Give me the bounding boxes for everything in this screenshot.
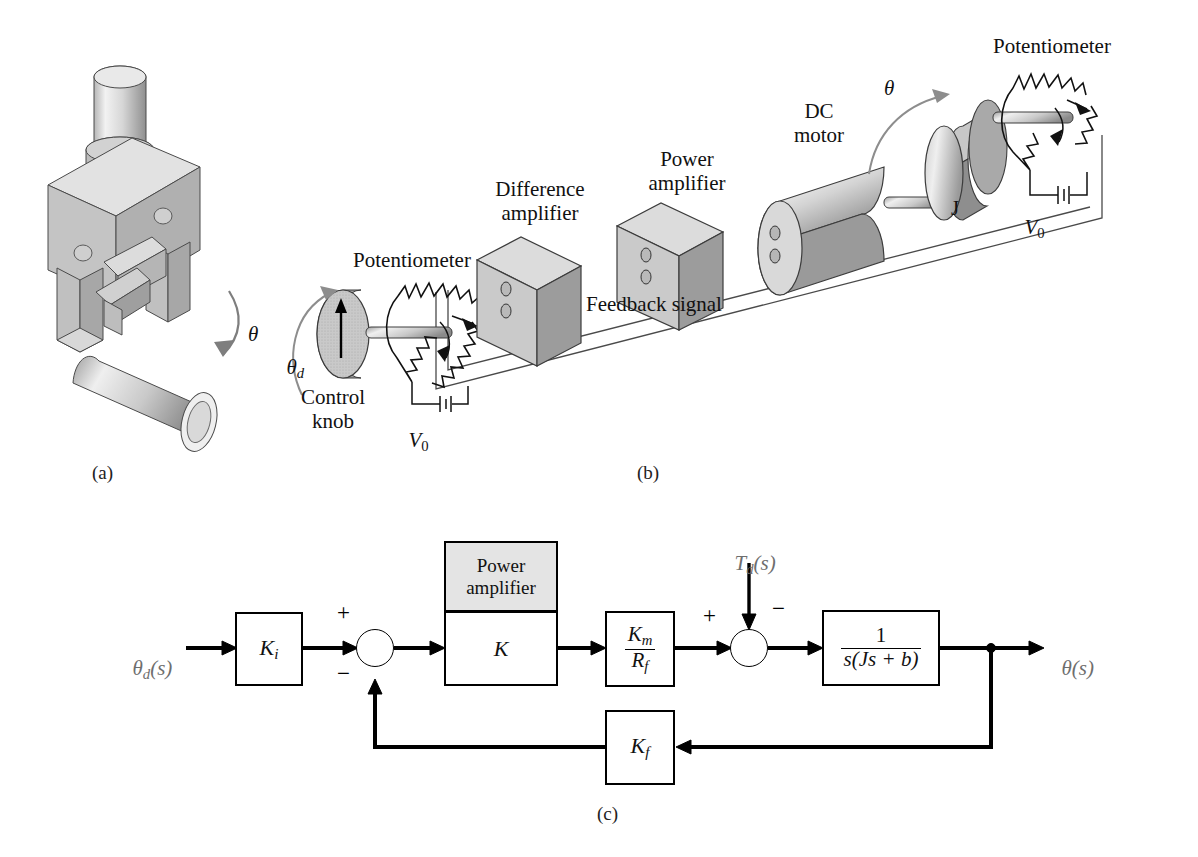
error-summing-junction[interactable] xyxy=(356,629,394,667)
power-amplifier-block[interactable]: K xyxy=(444,611,558,686)
feedback-signal-label: Feedback signal xyxy=(586,293,722,317)
kf-block-label: Kf xyxy=(607,712,673,783)
workpiece-cylinder xyxy=(73,356,223,455)
error-sum-minus-sign: − xyxy=(337,661,350,687)
power-amplifier-header-line2: amplifier xyxy=(466,577,536,599)
theta-label-b: θ xyxy=(884,77,894,101)
difference-amplifier-box xyxy=(477,237,581,366)
voltage-right-label: V0 xyxy=(1014,192,1045,241)
theta-d-label-b: θd xyxy=(276,332,304,381)
kf-block[interactable]: Kf xyxy=(605,710,675,785)
disturbance-sum-minus-sign: − xyxy=(772,596,785,622)
plant-block[interactable]: 1 s(Js + b) xyxy=(822,610,940,686)
km-rf-block[interactable]: Km Rf xyxy=(605,611,675,687)
inertia-label: J xyxy=(951,197,959,221)
output-signal-label: θ(s) xyxy=(1051,633,1094,680)
disturbance-sum-plus-sign: + xyxy=(703,603,716,629)
disturbance-summing-junction[interactable] xyxy=(730,629,768,667)
potentiometer-left-label: Potentiometer xyxy=(353,249,471,273)
power-amplifier-gain-label: K xyxy=(446,613,556,684)
control-knob-label: Controlknob xyxy=(301,386,365,433)
voltage-left-label: V0 xyxy=(398,405,429,454)
error-sum-plus-sign: + xyxy=(337,600,350,626)
power-amplifier-label-b: Poweramplifier xyxy=(649,148,726,195)
disturbance-signal-label: Td(s) xyxy=(724,528,776,577)
power-amplifier-block-header: Power amplifier xyxy=(444,541,558,612)
control-knob xyxy=(317,290,452,378)
km-rf-block-label: Km Rf xyxy=(607,613,673,685)
plant-block-label: 1 s(Js + b) xyxy=(824,612,938,684)
theta-label-a: θ xyxy=(248,323,258,347)
input-signal-label: θd(s) xyxy=(122,633,172,682)
inertia-disk xyxy=(925,100,1073,220)
panel-caption-a: (a) xyxy=(92,462,113,484)
panel-caption-c: (c) xyxy=(597,803,618,825)
power-amplifier-header-line1: Power xyxy=(477,555,526,577)
panel-caption-b: (b) xyxy=(637,462,659,484)
panel-a-gripper xyxy=(0,0,1198,857)
potentiometer-right-label: Potentiometer xyxy=(993,35,1111,59)
plant-numerator: 1 xyxy=(841,625,922,647)
plant-denominator: s(Js + b) xyxy=(841,648,922,671)
dc-motor xyxy=(758,167,946,295)
ki-block[interactable]: Ki xyxy=(235,612,303,686)
dc-motor-label: DCmotor xyxy=(794,100,844,147)
ki-block-label: Ki xyxy=(237,614,301,684)
theta-rotation-arrow-a xyxy=(214,291,239,357)
difference-amplifier-label: Differenceamplifier xyxy=(495,178,584,225)
